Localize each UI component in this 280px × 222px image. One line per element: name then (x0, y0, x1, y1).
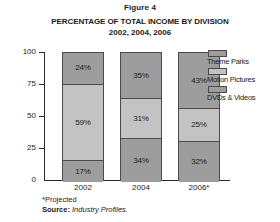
bar-2004-label-motion-pictures: 31% (133, 115, 148, 123)
y-tick-100 (39, 52, 45, 53)
footnote-projected: *Projected (42, 195, 77, 205)
legend-swatch-dvds-videos (208, 86, 227, 93)
bar-2004-label-theme-parks: 35% (133, 72, 148, 80)
bar-2002-segment-theme-parks: 24% (63, 53, 103, 84)
bar-2002-segment-dvds-videos: 17% (63, 160, 103, 182)
y-tick-75 (39, 84, 45, 85)
plot-area: 100 75 50 25 0 24% 59% 17% 2002 35% 31% (0, 0, 280, 222)
legend-label-motion-pictures: Motion Pictures (207, 75, 280, 84)
y-tick-label-50: 50 (14, 112, 36, 120)
source-value: Industry Profiles. (72, 205, 128, 214)
bar-2002-label-motion-pictures: 59% (75, 119, 90, 127)
legend-label-dvds-videos: DVDs & Videos (207, 93, 280, 102)
bar-2002-segment-motion-pictures: 59% (63, 84, 103, 160)
legend-item-motion-pictures: Motion Pictures (207, 68, 280, 84)
bar-2002-label-theme-parks: 24% (75, 64, 90, 72)
legend-swatch-theme-parks (208, 50, 227, 57)
bar-2004-segment-motion-pictures: 31% (121, 98, 161, 138)
bar-2006-label-dvds-videos: 32% (191, 158, 206, 166)
source-line: Source: Industry Profiles. (42, 205, 128, 215)
bar-2004: 35% 31% 34% (120, 52, 162, 181)
y-tick-label-25: 25 (14, 144, 36, 152)
legend-item-dvds-videos: DVDs & Videos (207, 86, 280, 102)
bar-2002: 24% 59% 17% (62, 52, 104, 181)
legend-label-theme-parks: Theme Parks (207, 57, 280, 66)
bar-2006-label-theme-parks: 43% (191, 77, 206, 85)
source-label: Source: (42, 205, 70, 214)
figure-container: Figure 4 PERCENTAGE OF TOTAL INCOME BY D… (0, 0, 280, 222)
x-category-label-2002: 2002 (55, 184, 111, 192)
x-category-label-2004: 2004 (113, 184, 169, 192)
legend-swatch-motion-pictures (208, 68, 227, 75)
y-tick-25 (39, 148, 45, 149)
x-category-label-2006: 2006* (171, 184, 227, 192)
bar-2004-label-dvds-videos: 34% (133, 157, 148, 165)
bar-2004-segment-theme-parks: 35% (121, 53, 161, 98)
bar-2004-segment-dvds-videos: 34% (121, 138, 161, 182)
y-tick-label-75: 75 (14, 80, 36, 88)
bar-2006-segment-motion-pictures: 25% (179, 108, 219, 140)
legend-item-theme-parks: Theme Parks (207, 50, 280, 66)
bar-2006-label-motion-pictures: 25% (191, 121, 206, 129)
bar-2002-label-dvds-videos: 17% (75, 168, 90, 176)
y-tick-label-100: 100 (14, 48, 36, 56)
chart-legend: Theme Parks Motion Pictures DVDs & Video… (207, 50, 280, 104)
bar-2006-segment-dvds-videos: 32% (179, 141, 219, 182)
y-tick-50 (39, 116, 45, 117)
y-tick-label-0: 0 (14, 176, 36, 184)
